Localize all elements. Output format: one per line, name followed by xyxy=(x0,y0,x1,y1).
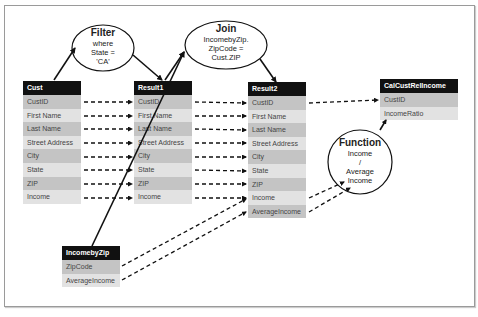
function-title: Function xyxy=(330,137,390,149)
function-line: Income xyxy=(330,149,390,158)
filter-line: 'CA' xyxy=(73,57,133,66)
join-title: Join xyxy=(186,23,266,35)
filter-line: State = xyxy=(73,48,133,57)
function-line: / xyxy=(330,158,390,167)
join-line: ZipCode = xyxy=(186,44,266,53)
filter-line: where xyxy=(73,39,133,48)
function-line: Average xyxy=(330,167,390,176)
join-line: Cust.ZIP xyxy=(186,53,266,62)
join-operation: Join IncomebyZip. ZipCode = Cust.ZIP xyxy=(186,23,266,62)
function-line: Income xyxy=(330,176,390,185)
function-operation: Function Income / Average Income xyxy=(330,137,390,185)
filter-operation: Filter where State = 'CA' xyxy=(73,27,133,66)
join-line: IncomebyZip. xyxy=(186,35,266,44)
filter-title: Filter xyxy=(73,27,133,39)
